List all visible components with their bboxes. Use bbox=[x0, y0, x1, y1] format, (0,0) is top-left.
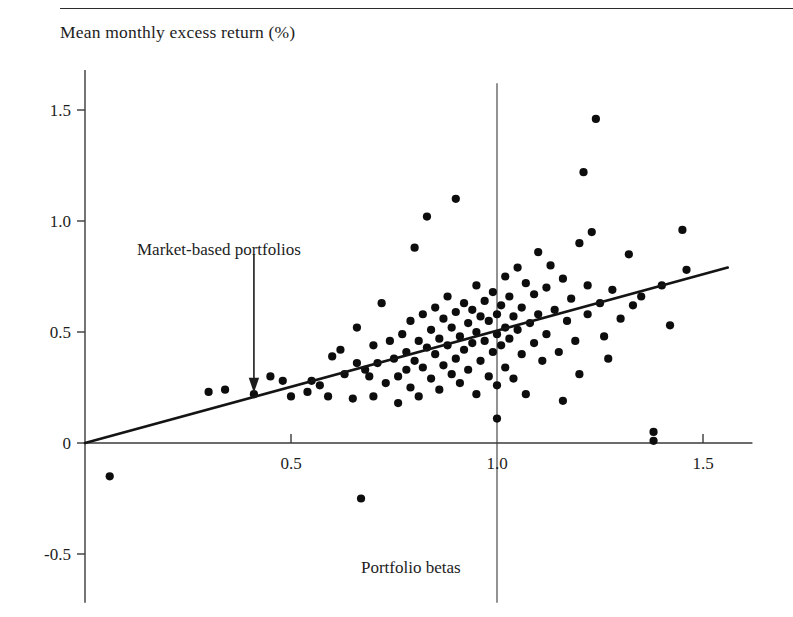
scatter-point bbox=[518, 303, 526, 311]
scatter-point bbox=[411, 357, 419, 365]
scatter-point bbox=[559, 397, 567, 405]
scatter-point bbox=[530, 339, 538, 347]
scatter-point bbox=[452, 355, 460, 363]
y-tick-label: 0 bbox=[63, 434, 72, 453]
scatter-point bbox=[542, 284, 550, 292]
y-tick-label: -0.5 bbox=[44, 545, 71, 564]
scatter-point bbox=[303, 388, 311, 396]
scatter-point bbox=[328, 352, 336, 360]
scatter-point bbox=[481, 297, 489, 305]
scatter-point bbox=[394, 399, 402, 407]
scatter-point bbox=[485, 317, 493, 325]
scatter-point bbox=[501, 272, 509, 280]
y-tick-label: 1.0 bbox=[50, 212, 71, 231]
scatter-point bbox=[514, 264, 522, 272]
scatter-point bbox=[415, 337, 423, 345]
scatter-point bbox=[649, 428, 657, 436]
scatter-point bbox=[649, 437, 657, 445]
scatter-point bbox=[481, 337, 489, 345]
scatter-point bbox=[419, 363, 427, 371]
scatter-point bbox=[509, 312, 517, 320]
x-tick-label: 1.0 bbox=[486, 454, 507, 473]
scatter-point bbox=[505, 292, 513, 300]
scatter-point bbox=[460, 346, 468, 354]
scatter-point bbox=[349, 395, 357, 403]
scatter-point bbox=[584, 310, 592, 318]
scatter-point bbox=[394, 372, 402, 380]
scatter-point bbox=[464, 319, 472, 327]
scatter-point bbox=[448, 323, 456, 331]
scatter-point bbox=[279, 377, 287, 385]
scatter-point bbox=[629, 301, 637, 309]
scatter-point bbox=[357, 494, 365, 502]
scatter-point bbox=[427, 326, 435, 334]
y-tick-label: 0.5 bbox=[50, 323, 71, 342]
scatter-point bbox=[608, 286, 616, 294]
scatter-point bbox=[678, 226, 686, 234]
scatter-point bbox=[369, 392, 377, 400]
scatter-point bbox=[452, 195, 460, 203]
scatter-point bbox=[567, 295, 575, 303]
scatter-point bbox=[497, 301, 505, 309]
scatter-point bbox=[476, 357, 484, 365]
scatter-point bbox=[522, 279, 530, 287]
scatter-point bbox=[509, 375, 517, 383]
scatter-point bbox=[666, 321, 674, 329]
x-tick-label: 0.5 bbox=[280, 454, 301, 473]
x-tick-label: 1.5 bbox=[692, 454, 713, 473]
scatter-point bbox=[625, 250, 633, 258]
scatter-point bbox=[419, 310, 427, 318]
y-tick-label: 1.5 bbox=[50, 101, 71, 120]
scatter-point bbox=[575, 239, 583, 247]
scatter-point bbox=[336, 346, 344, 354]
annotation-arrow bbox=[249, 254, 259, 392]
scatter-point bbox=[555, 348, 563, 356]
scatter-point bbox=[439, 361, 447, 369]
scatter-point bbox=[546, 261, 554, 269]
scatter-point bbox=[563, 317, 571, 325]
scatter-point bbox=[476, 312, 484, 320]
y-tick-group: -0.500.51.01.5 bbox=[44, 101, 85, 564]
scatter-point bbox=[443, 292, 451, 300]
scatter-point bbox=[493, 310, 501, 318]
scatter-point bbox=[534, 310, 542, 318]
scatter-point bbox=[575, 370, 583, 378]
scatter-point bbox=[353, 359, 361, 367]
scatter-point bbox=[485, 372, 493, 380]
scatter-point bbox=[435, 386, 443, 394]
scatter-point bbox=[398, 330, 406, 338]
scatter-point bbox=[522, 390, 530, 398]
scatter-point bbox=[584, 281, 592, 289]
scatter-point bbox=[468, 306, 476, 314]
scatter-point bbox=[542, 330, 550, 338]
scatter-point bbox=[530, 290, 538, 298]
scatter-point bbox=[493, 414, 501, 422]
scatter-point bbox=[378, 299, 386, 307]
scatter-point bbox=[287, 392, 295, 400]
scatter-point bbox=[604, 355, 612, 363]
scatter-point bbox=[682, 266, 690, 274]
scatter-point bbox=[464, 366, 472, 374]
scatter-point bbox=[617, 315, 625, 323]
scatter-point bbox=[406, 317, 414, 325]
scatter-point bbox=[448, 370, 456, 378]
scatter-point bbox=[106, 472, 114, 480]
scatter-point bbox=[493, 381, 501, 389]
scatter-point bbox=[415, 392, 423, 400]
scatter-point bbox=[489, 348, 497, 356]
scatter-point bbox=[592, 115, 600, 123]
axes-group bbox=[85, 70, 752, 603]
regression-fit-line bbox=[85, 268, 728, 443]
scatter-point bbox=[353, 323, 361, 331]
scatter-point bbox=[324, 392, 332, 400]
scatter-point bbox=[439, 315, 447, 323]
scatter-point bbox=[402, 366, 410, 374]
scatter-point bbox=[588, 228, 596, 236]
scatter-point bbox=[435, 335, 443, 343]
scatter-point bbox=[423, 212, 431, 220]
arrow-head bbox=[249, 378, 259, 393]
scatter-point bbox=[266, 372, 274, 380]
scatter-point bbox=[518, 350, 526, 358]
scatter-point bbox=[472, 281, 480, 289]
scatter-point bbox=[431, 350, 439, 358]
